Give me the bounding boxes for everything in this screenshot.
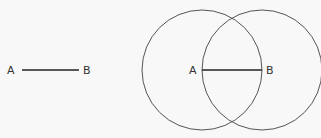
center-b-label: B xyxy=(266,64,274,77)
point-b-label: B xyxy=(83,64,91,77)
point-a-label: A xyxy=(7,64,15,77)
diagram-canvas: A B A B xyxy=(0,0,321,138)
circle-construction: A B xyxy=(142,10,321,130)
center-a-label: A xyxy=(189,64,197,77)
segment-ab: A B xyxy=(7,64,91,77)
